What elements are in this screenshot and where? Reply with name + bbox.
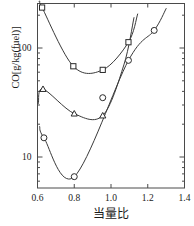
x-tick-label: 0.8: [68, 193, 80, 203]
data-point-marker: [151, 27, 157, 33]
y-tick-label: 10: [22, 152, 32, 162]
chart-figure: 0.60.81.01.21.4 10010 CO[g/kg(fuel)] 当量比: [0, 0, 194, 226]
y-axis-ticks: [38, 15, 185, 181]
data-point-marker: [126, 40, 131, 45]
y-axis-label: CO[g/kg(fuel)]: [10, 0, 21, 117]
data-point-marker: [100, 67, 105, 72]
x-axis-tick-labels: 0.60.81.01.21.4: [32, 193, 191, 203]
data-point-marker: [41, 135, 47, 141]
data-point-marker: [71, 111, 77, 117]
data-point-marker: [100, 95, 106, 101]
x-axis-ticks: [38, 4, 185, 189]
chart-plot-area: 0.60.81.01.21.4 10010: [0, 0, 194, 226]
data-point-marker: [39, 5, 44, 10]
series-curve: [38, 18, 134, 120]
data-point-marker: [71, 64, 76, 69]
data-point-marker: [71, 174, 77, 180]
data-point-marker: [125, 57, 131, 63]
plot-frame: [38, 4, 185, 189]
x-tick-label: 0.6: [32, 193, 44, 203]
x-tick-label: 1.4: [179, 193, 191, 203]
series-curves: [38, 1, 166, 179]
series-curve: [40, 9, 166, 179]
x-tick-label: 1.2: [142, 193, 154, 203]
series-markers: [39, 5, 157, 180]
x-tick-label: 1.0: [105, 193, 117, 203]
x-axis-label: 当量比: [37, 204, 185, 221]
series-curve: [39, 1, 137, 73]
